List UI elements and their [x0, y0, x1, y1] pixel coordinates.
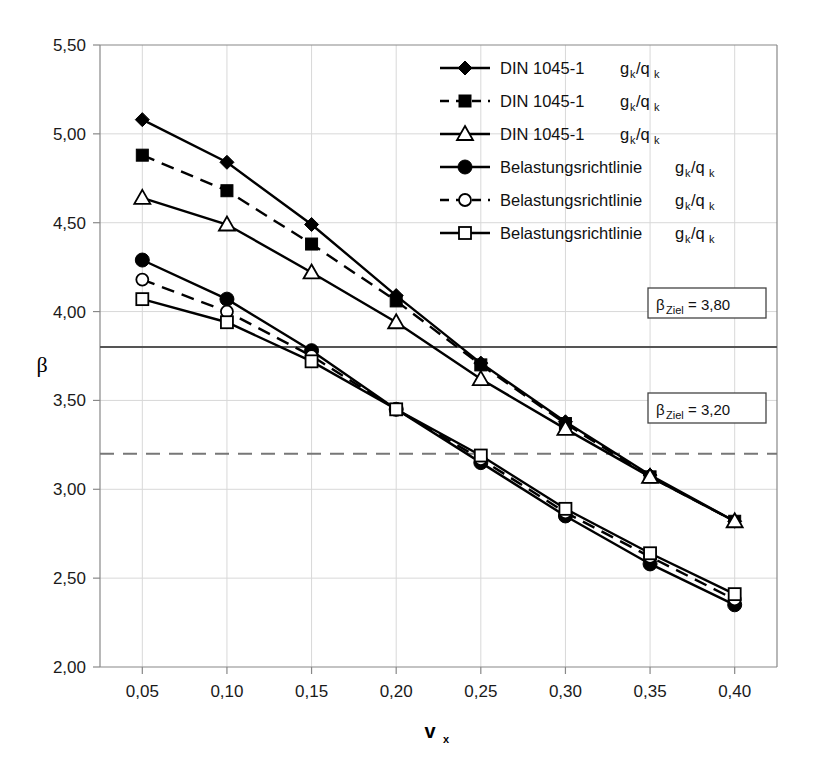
y-tick-label: 2,50: [53, 569, 86, 588]
legend-ratio-sub2: k: [709, 167, 715, 179]
y-tick-label: 5,50: [53, 36, 86, 55]
legend-ratio-mid: /q: [636, 59, 650, 77]
y-tick-label: 3,00: [53, 480, 86, 499]
data-point-marker: [136, 293, 148, 305]
legend-series-name: DIN 1045-1: [500, 92, 584, 110]
y-tick-label: 3,50: [53, 391, 86, 410]
x-tick-label: 0,05: [126, 682, 159, 701]
data-point-marker: [644, 547, 656, 559]
chart-background: [0, 0, 833, 775]
legend-ratio-text: g: [620, 125, 629, 143]
data-point-marker: [458, 160, 472, 174]
legend-series-name: DIN 1045-1: [500, 59, 584, 77]
data-point-marker: [559, 503, 571, 515]
annotation-value: = 3,80: [688, 296, 730, 313]
data-point-marker: [475, 359, 487, 371]
x-axis-title-main: v: [424, 720, 436, 742]
annotation-value: = 3,20: [688, 401, 730, 418]
annotation-box-upper: βZiel = 3,80: [648, 288, 766, 318]
x-tick-label: 0,15: [295, 682, 328, 701]
legend-series-name: Belastungsrichtlinie: [500, 224, 642, 242]
data-point-marker: [306, 238, 318, 250]
annotation-box-lower: βZiel = 3,20: [648, 393, 766, 423]
x-tick-label: 0,10: [210, 682, 243, 701]
data-point-marker: [459, 95, 471, 107]
y-tick-label: 4,50: [53, 214, 86, 233]
chart-root: 2,002,503,003,504,004,505,005,50 0,050,1…: [0, 0, 833, 775]
x-axis-title-sub: x: [443, 733, 450, 745]
x-tick-label: 0,40: [718, 682, 751, 701]
x-tick-label: 0,25: [464, 682, 497, 701]
x-tick-label: 0,30: [549, 682, 582, 701]
x-tick-label: 0,35: [634, 682, 667, 701]
legend-series-name: Belastungsrichtlinie: [500, 191, 642, 209]
legend-ratio-mid: /q: [691, 158, 705, 176]
data-point-marker: [459, 194, 471, 206]
legend-ratio-mid: /q: [691, 191, 705, 209]
legend-ratio-mid: /q: [636, 125, 650, 143]
data-point-marker: [390, 403, 402, 415]
data-point-marker: [729, 588, 741, 600]
legend-ratio-text: g: [675, 158, 684, 176]
y-tick-label: 5,00: [53, 125, 86, 144]
annotation-subscript: Ziel: [666, 304, 684, 316]
data-point-marker: [135, 253, 149, 267]
legend-ratio-text: g: [675, 224, 684, 242]
y-tick-label: 4,00: [53, 303, 86, 322]
legend-ratio-sub2: k: [654, 68, 660, 80]
data-point-marker: [220, 292, 234, 306]
annotation-beta: β: [656, 401, 665, 418]
legend-ratio-sub2: k: [709, 233, 715, 245]
data-point-marker: [136, 274, 148, 286]
beta-vs-vx-line-chart: 2,002,503,003,504,004,505,005,50 0,050,1…: [0, 0, 833, 775]
annotation-subscript: Ziel: [666, 409, 684, 421]
legend-ratio-sub2: k: [709, 200, 715, 212]
data-point-marker: [136, 149, 148, 161]
legend-series-name: Belastungsrichtlinie: [500, 158, 642, 176]
legend-series-name: DIN 1045-1: [500, 125, 584, 143]
legend-ratio-text: g: [620, 59, 629, 77]
legend-ratio-sub2: k: [654, 101, 660, 113]
annotation-beta: β: [656, 296, 665, 313]
data-point-marker: [475, 450, 487, 462]
legend-ratio-mid: /q: [691, 224, 705, 242]
data-point-marker: [221, 185, 233, 197]
legend-ratio-text: g: [620, 92, 629, 110]
x-tick-label: 0,20: [380, 682, 413, 701]
y-axis-title: β: [36, 352, 47, 377]
data-point-marker: [221, 316, 233, 328]
legend-ratio-text: g: [675, 191, 684, 209]
legend-ratio-mid: /q: [636, 92, 650, 110]
data-point-marker: [459, 227, 471, 239]
data-point-marker: [390, 295, 402, 307]
data-point-marker: [306, 355, 318, 367]
y-tick-label: 2,00: [53, 658, 86, 677]
legend-ratio-sub2: k: [654, 134, 660, 146]
